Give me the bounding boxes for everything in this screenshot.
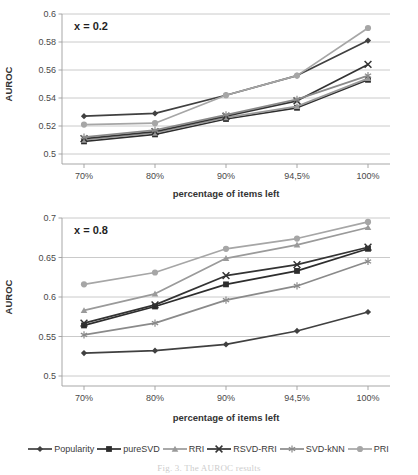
y-tick-label: 0.58 — [38, 37, 56, 47]
plot-annotation: x = 0.8 — [74, 224, 108, 236]
y-axis-tick-labels: 0.50.520.540.560.580.6 — [38, 9, 56, 159]
chart-legend: PopularitypureSVDRRIRSVD-RRISVD-kNNPRI — [0, 436, 418, 462]
legend-item-label: SVD-kNN — [306, 444, 345, 454]
y-tick-label: 0.55 — [38, 332, 56, 342]
cross-marker-icon — [206, 443, 232, 455]
legend-item-label: PRI — [374, 444, 389, 454]
asterisk-marker-icon — [279, 443, 305, 455]
diamond-marker-icon — [27, 443, 53, 455]
legend-item-pri[interactable]: PRI — [347, 443, 391, 455]
y-tick-label: 0.65 — [38, 253, 56, 263]
x-tick-label: 70% — [75, 171, 93, 181]
legend-item-svd-knn[interactable]: SVD-kNN — [279, 443, 347, 455]
y-tick-label: 0.5 — [43, 149, 56, 159]
y-axis-title: AUROC — [3, 66, 14, 101]
x-tick-label: 94,5% — [284, 171, 310, 181]
figure-caption: Fig. 3. The AUROC results — [0, 463, 418, 475]
x-axis-title: percentage of items left — [173, 412, 280, 423]
legend-item-label: Popularity — [54, 444, 94, 454]
legend-item-rri[interactable]: RRI — [162, 443, 207, 455]
chart-canvas-bottom: 0.50.550.60.650.770%80%90%94,5%100%perce… — [0, 206, 418, 424]
x-tick-label: 90% — [217, 171, 235, 181]
chart-canvas-top: 0.50.520.540.560.580.670%80%90%94,5%100%… — [0, 4, 418, 200]
legend-item-puresvd[interactable]: pureSVD — [96, 443, 162, 455]
x-tick-label: 80% — [146, 393, 164, 403]
x-tick-label: 90% — [217, 393, 235, 403]
y-tick-label: 0.7 — [43, 213, 56, 223]
x-axis-tick-labels: 70%80%90%94,5%100% — [75, 171, 380, 181]
y-tick-label: 0.54 — [38, 93, 56, 103]
square-marker-icon — [96, 443, 122, 455]
y-axis-title: AUROC — [3, 279, 14, 314]
legend-item-rsvd-rri[interactable]: RSVD-RRI — [206, 443, 279, 455]
legend-item-popularity[interactable]: Popularity — [27, 443, 96, 455]
legend-item-label: RRI — [189, 444, 205, 454]
y-tick-label: 0.6 — [43, 292, 56, 302]
x-tick-label: 100% — [356, 393, 379, 403]
triangle-marker-icon — [162, 443, 188, 455]
y-tick-label: 0.52 — [38, 121, 56, 131]
x-tick-label: 100% — [356, 171, 379, 181]
circle-marker-icon — [347, 443, 373, 455]
x-axis-tick-labels: 70%80%90%94,5%100% — [75, 393, 380, 403]
chart-x-0-2: 0.50.520.540.560.580.670%80%90%94,5%100%… — [0, 4, 418, 200]
x-tick-label: 94,5% — [284, 393, 310, 403]
y-tick-label: 0.6 — [43, 9, 56, 19]
y-tick-label: 0.5 — [43, 371, 56, 381]
legend-item-label: pureSVD — [123, 444, 160, 454]
figure-auroc-results: 0.50.520.540.560.580.670%80%90%94,5%100%… — [0, 0, 418, 475]
x-axis-title: percentage of items left — [173, 188, 280, 199]
x-tick-label: 70% — [75, 393, 93, 403]
chart-x-0-8: 0.50.550.60.650.770%80%90%94,5%100%perce… — [0, 206, 418, 424]
y-tick-label: 0.56 — [38, 65, 56, 75]
y-axis-tick-labels: 0.50.550.60.650.7 — [38, 213, 56, 381]
plot-annotation: x = 0.2 — [74, 20, 108, 32]
x-tick-label: 80% — [146, 171, 164, 181]
legend-item-label: RSVD-RRI — [233, 444, 277, 454]
